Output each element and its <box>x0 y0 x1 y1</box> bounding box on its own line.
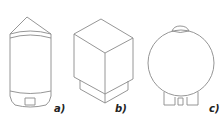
cylinder-tank-illustration <box>10 17 51 107</box>
panel-label-b: b) <box>115 104 127 114</box>
tank-figure <box>0 0 222 120</box>
spherical-tank-illustration <box>148 26 214 105</box>
panel-label-c: c) <box>209 104 220 114</box>
box-tank-illustration <box>74 19 133 103</box>
panel-label-a: a) <box>54 104 65 114</box>
